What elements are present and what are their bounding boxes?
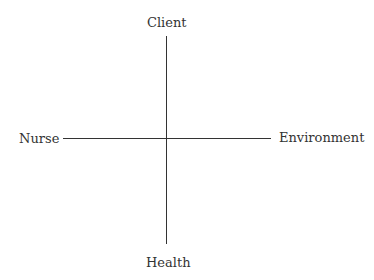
label-environment: Environment: [279, 130, 364, 146]
label-nurse: Nurse: [19, 131, 59, 147]
horizontal-axis-line: [63, 138, 271, 139]
label-client: Client: [147, 15, 187, 31]
vertical-axis-line: [166, 36, 167, 244]
label-health: Health: [146, 255, 191, 271]
